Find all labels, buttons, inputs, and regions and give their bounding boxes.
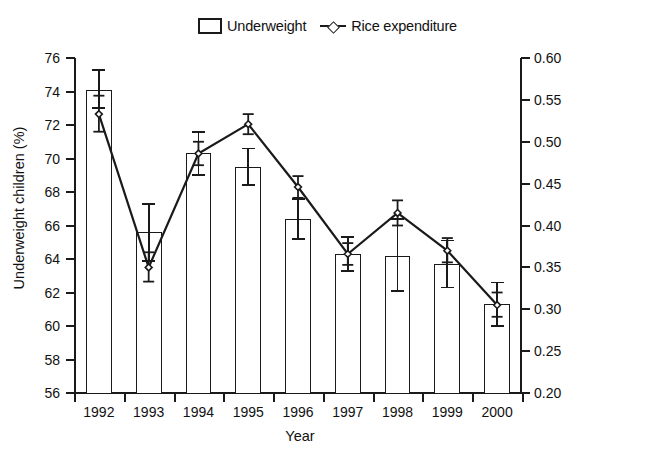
y-axis-right-tick-label: 0.40	[534, 219, 578, 233]
bar-swatch-icon	[198, 18, 222, 34]
x-axis-tick	[74, 393, 76, 402]
y-axis-left-title: Underweight children (%)	[11, 58, 27, 358]
y-axis-left-tick-label: 56	[20, 386, 60, 400]
x-axis-tick	[124, 393, 126, 402]
y-axis-right-tick	[521, 99, 530, 101]
y-axis-right-tick	[521, 141, 530, 143]
legend-label-rice-expenditure: Rice expenditure	[351, 18, 457, 34]
legend-label-underweight: Underweight	[227, 18, 306, 34]
y-axis-right-tick	[521, 225, 530, 227]
diamond-marker-icon	[145, 264, 152, 271]
plot-area	[74, 58, 522, 393]
chart-legend: Underweight Rice expenditure	[0, 18, 655, 34]
line-diamond-icon	[320, 20, 346, 32]
x-axis-tick	[422, 393, 424, 402]
y-axis-right-tick-label: 0.20	[534, 386, 578, 400]
chart-figure: Underweight Rice expenditure 56586062646…	[0, 0, 655, 466]
line-series-rice-expenditure	[74, 58, 522, 393]
y-axis-right-tick-label: 0.55	[534, 93, 578, 107]
x-axis-tick	[273, 393, 275, 402]
x-axis-tick	[223, 393, 225, 402]
y-axis-right-tick	[521, 266, 530, 268]
legend-item-rice-expenditure: Rice expenditure	[320, 18, 457, 34]
y-axis-right-tick-label: 0.60	[534, 51, 578, 65]
x-axis-tick	[323, 393, 325, 402]
y-axis-right-tick-label: 0.30	[534, 302, 578, 316]
y-axis-right-tick-label: 0.45	[534, 177, 578, 191]
x-axis-title: Year	[0, 428, 600, 444]
legend-item-underweight: Underweight	[198, 18, 306, 34]
y-axis-right-tick	[521, 308, 530, 310]
y-axis-right-tick	[521, 183, 530, 185]
x-axis-tick-label: 2000	[467, 404, 527, 420]
y-axis-right-tick	[521, 350, 530, 352]
y-axis-right-tick-label: 0.35	[534, 260, 578, 274]
y-axis-right-tick-label: 0.50	[534, 135, 578, 149]
diamond-marker-icon	[95, 111, 102, 118]
x-axis-tick	[174, 393, 176, 402]
y-axis-right-tick	[521, 57, 530, 59]
x-axis-tick	[522, 393, 524, 402]
x-axis-tick	[472, 393, 474, 402]
y-axis-right-tick-label: 0.25	[534, 344, 578, 358]
x-axis-tick	[373, 393, 375, 402]
rice-expenditure-line	[99, 114, 497, 305]
